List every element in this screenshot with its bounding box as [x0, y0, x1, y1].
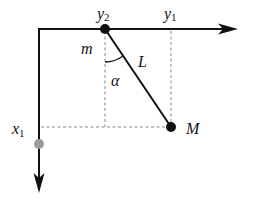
label-y1: y1 [162, 5, 177, 23]
label-x1: x1 [11, 120, 25, 139]
label-m: m [81, 40, 93, 57]
label-y2: y2 [95, 5, 110, 23]
bob-mass-point [166, 122, 176, 132]
label-M: M [185, 120, 201, 137]
pendulum-cart-diagram: y2 y1 x1 m L α M [0, 0, 254, 202]
vertical-axis [34, 28, 45, 193]
x1-position-point [34, 139, 44, 149]
label-alpha: α [111, 72, 120, 89]
pivot-mass-point [100, 24, 110, 34]
dashed-guides [41, 31, 171, 127]
label-L: L [137, 53, 147, 70]
horizontal-axis [39, 24, 238, 35]
angle-arc [105, 56, 123, 62]
